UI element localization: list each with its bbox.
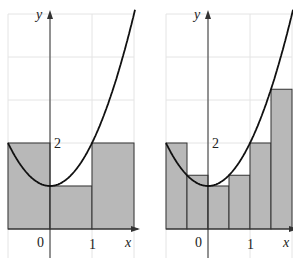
tick-label-1: 1 [89, 237, 96, 252]
x-axis-arrow-icon [131, 226, 140, 232]
riemann-rectangle [271, 89, 292, 229]
riemann-rectangle [208, 186, 229, 229]
tick-label-0: 0 [195, 235, 202, 250]
riemann-sum-figure: yx012yx012 [0, 0, 293, 261]
rectangles [8, 143, 134, 229]
riemann-rectangle [229, 175, 250, 229]
riemann-rectangle [166, 143, 187, 229]
x-axis-label: x [124, 235, 132, 250]
riemann-rectangle [250, 143, 271, 229]
x-axis-label: x [282, 235, 290, 250]
y-axis-label: y [192, 7, 201, 22]
y-axis-label: y [34, 7, 43, 22]
rectangles [166, 89, 292, 229]
riemann-rectangle [92, 143, 134, 229]
left-panel: yx012 [8, 7, 140, 258]
tick-label-1: 1 [247, 237, 254, 252]
tick-label-2: 2 [212, 136, 219, 151]
riemann-rectangle [50, 186, 92, 229]
tick-label-2: 2 [54, 136, 61, 151]
right-panel: yx012 [166, 7, 293, 258]
tick-label-0: 0 [37, 235, 44, 250]
